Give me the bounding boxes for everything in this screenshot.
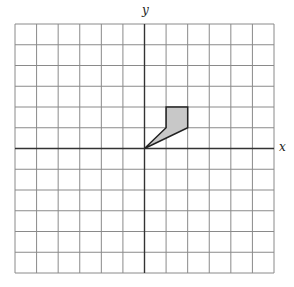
y-axis-label: y [142, 3, 149, 17]
coordinate-grid [0, 0, 294, 287]
x-axis-label: x [279, 140, 286, 154]
